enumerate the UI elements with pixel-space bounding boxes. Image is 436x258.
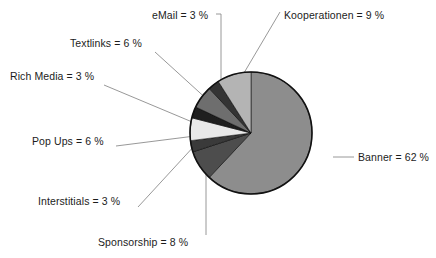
leader-line-rich-media bbox=[104, 85, 197, 124]
slice-label-interstitials: Interstitials = 3 % bbox=[38, 195, 120, 207]
leader-line-pop-ups bbox=[116, 136, 195, 146]
leader-line-textlinks bbox=[155, 52, 210, 102]
pie-chart-figure: Banner = 62 %Sponsorship = 8 %Interstiti… bbox=[0, 0, 436, 258]
leader-line-kooperationen bbox=[241, 12, 280, 78]
slice-label-email: eMail = 3 % bbox=[152, 9, 208, 21]
slice-label-kooperationen: Kooperationen = 9 % bbox=[284, 9, 384, 21]
slice-label-textlinks: Textlinks = 6 % bbox=[70, 37, 142, 49]
pie-chart-canvas: Banner = 62 %Sponsorship = 8 %Interstiti… bbox=[0, 0, 436, 258]
slice-label-sponsorship: Sponsorship = 8 % bbox=[98, 236, 188, 248]
slice-label-banner: Banner = 62 % bbox=[358, 151, 429, 163]
slice-label-rich-media: Rich Media = 3 % bbox=[10, 70, 94, 82]
leader-line-interstitials bbox=[138, 144, 196, 207]
slice-label-pop-ups: Pop Ups = 6 % bbox=[32, 135, 104, 147]
